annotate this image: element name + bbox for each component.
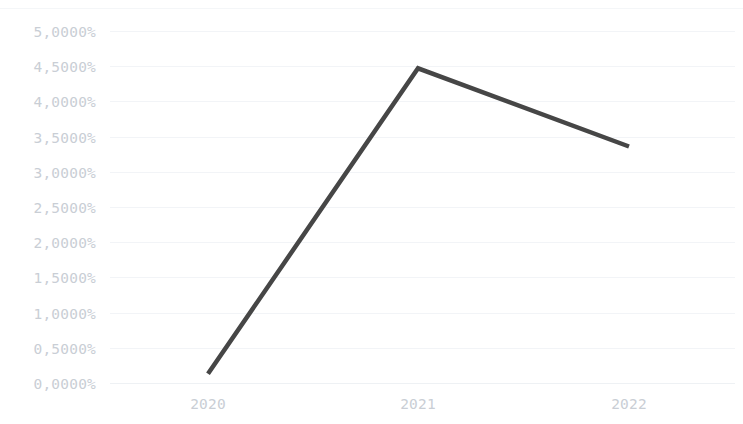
x-tick-label: 2021: [400, 397, 436, 412]
x-axis: 2020 2021 2022: [0, 0, 743, 424]
line-chart: 5,0000% 4,5000% 4,0000% 3,5000% 3,0000% …: [0, 0, 743, 424]
x-tick-label: 2022: [611, 397, 647, 412]
x-tick-label: 2020: [190, 397, 226, 412]
